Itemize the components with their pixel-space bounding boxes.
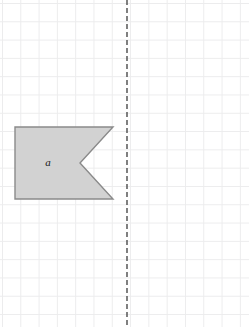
shape-a-polygon[interactable]: [15, 127, 113, 199]
figure-layer: a: [0, 0, 249, 327]
shape-a-label: a: [45, 156, 51, 168]
worksheet-canvas: a: [0, 0, 249, 327]
